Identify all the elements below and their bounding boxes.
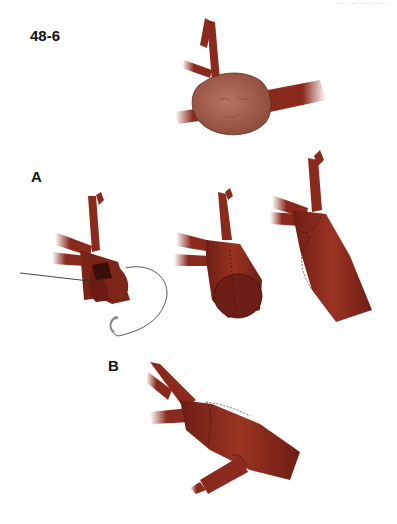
- panel-b-patch-repair: [146, 362, 300, 494]
- aneurysm-figure: [175, 18, 326, 135]
- panel-a-tubular-closure: [174, 188, 262, 318]
- illustration-canvas: [0, 0, 397, 524]
- panel-a-open-vessel: [20, 192, 167, 336]
- needle-icon: [111, 318, 118, 332]
- panel-a-completed-repair: [270, 150, 372, 322]
